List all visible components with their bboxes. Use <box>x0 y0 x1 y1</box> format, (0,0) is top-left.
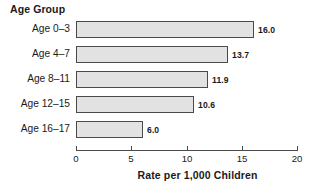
bar-value-3: 10.6 <box>198 100 215 110</box>
bar-value-1: 13.7 <box>232 50 249 60</box>
bar-chart: Age Group Age 0–3 16.0 Age 4–7 13.7 Age … <box>0 0 319 190</box>
axis-tick-label-10: 10 <box>175 153 199 164</box>
bar-0[interactable] <box>76 21 254 38</box>
category-label-3: Age 12–15 <box>0 98 70 109</box>
axis-tick-0 <box>76 146 77 151</box>
bar-value-4: 6.0 <box>147 125 159 135</box>
bar-1[interactable] <box>76 46 228 63</box>
category-label-1: Age 4–7 <box>0 48 70 59</box>
bar-value-2: 11.9 <box>212 75 229 85</box>
plot-area: Age 0–3 16.0 Age 4–7 13.7 Age 8–11 11.9 … <box>0 19 319 145</box>
bar-row: Age 4–7 13.7 <box>0 44 319 69</box>
bar-row: Age 0–3 16.0 <box>0 19 319 44</box>
axis-tick-label-5: 5 <box>119 153 143 164</box>
value-axis-line <box>76 150 298 151</box>
bar-value-0: 16.0 <box>258 25 275 35</box>
bar-row: Age 12–15 10.6 <box>0 94 319 119</box>
bar-row: Age 16–17 6.0 <box>0 119 319 144</box>
category-label-0: Age 0–3 <box>0 23 70 34</box>
bar-3[interactable] <box>76 96 194 113</box>
bar-2[interactable] <box>76 71 208 88</box>
bar-row: Age 8–11 11.9 <box>0 69 319 94</box>
category-label-4: Age 16–17 <box>0 123 70 134</box>
axis-tick-label-0: 0 <box>64 153 88 164</box>
category-label-2: Age 8–11 <box>0 73 70 84</box>
bar-4[interactable] <box>76 121 143 138</box>
axis-tick-label-15: 15 <box>230 153 254 164</box>
axis-tick-20 <box>297 146 298 151</box>
category-axis-title: Age Group <box>10 3 65 15</box>
axis-tick-label-20: 20 <box>285 153 309 164</box>
axis-tick-5 <box>131 146 132 151</box>
value-axis-title: Rate per 1,000 Children <box>137 169 257 181</box>
axis-tick-15 <box>242 146 243 151</box>
axis-tick-10 <box>187 146 188 151</box>
value-axis-title-wrap: Rate per 1,000 Children <box>0 169 319 181</box>
